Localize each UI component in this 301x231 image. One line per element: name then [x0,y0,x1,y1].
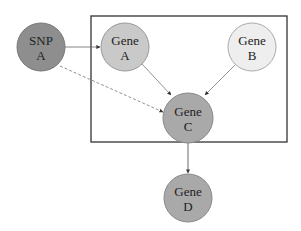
node-label: Gene [111,33,139,48]
node-label: SNP [29,33,53,48]
node-label: D [183,199,192,214]
node-label: Gene [174,184,202,199]
edge-geneb-genec [205,65,235,95]
node-gene-b: Gene B [228,23,276,71]
causal-diagram: SNP A Gene A Gene B Gene C Gene D [0,0,301,231]
node-gene-d: Gene D [164,174,212,222]
node-label: A [36,48,46,63]
edge-snpa-genec-dashed [60,66,163,112]
edge-genea-genec [142,64,171,95]
node-label: B [248,48,257,63]
node-label: C [184,119,193,134]
node-snp-a: SNP A [17,23,65,71]
node-label: Gene [238,33,266,48]
node-gene-c: Gene C [163,93,213,143]
node-gene-a: Gene A [101,23,149,71]
node-label: Gene [174,104,202,119]
node-label: A [120,48,130,63]
